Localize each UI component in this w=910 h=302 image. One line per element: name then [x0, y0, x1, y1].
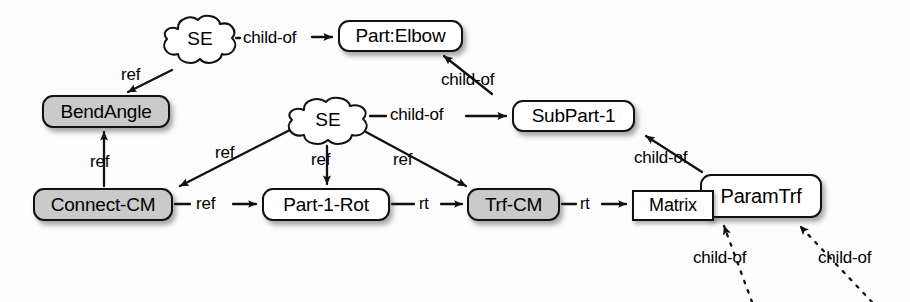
edge-label-child-of-1: child-of	[243, 28, 296, 48]
node-trf-cm[interactable]: Trf-CM	[467, 188, 560, 221]
edge-se2-ref-trfcm	[366, 132, 466, 186]
node-connect-cm[interactable]: Connect-CM	[33, 188, 173, 221]
edge-label-child-of-2: child-of	[441, 70, 494, 90]
edge-label-ref-2: ref	[215, 143, 234, 163]
edge-label-child-of-6: child-of	[818, 248, 871, 268]
node-label: SubPart-1	[532, 105, 616, 127]
node-part-elbow[interactable]: Part:Elbow	[338, 20, 463, 52]
edge-label-rt-1: rt	[419, 195, 428, 213]
edge-label-child-of-3: child-of	[390, 105, 443, 125]
node-label: Trf-CM	[485, 194, 542, 216]
diagram-canvas: SE Part:Elbow BendAngle SE SubPart-1 Con…	[0, 0, 910, 302]
node-bend-angle[interactable]: BendAngle	[42, 95, 170, 128]
node-label: Connect-CM	[51, 194, 156, 216]
node-label: SE	[187, 28, 212, 52]
node-se-2[interactable]: SE	[282, 94, 374, 148]
edge-se2-ref-connectcm	[180, 130, 290, 186]
node-label: SE	[315, 109, 340, 133]
edge-label-ref-5: ref	[90, 152, 109, 172]
node-label: ParamTrf	[721, 185, 802, 208]
node-matrix[interactable]: Matrix	[632, 190, 714, 221]
node-label: Part-1-Rot	[283, 194, 369, 216]
node-part-1-rot[interactable]: Part-1-Rot	[262, 188, 390, 221]
node-label: BendAngle	[60, 101, 151, 123]
node-subpart-1[interactable]: SubPart-1	[512, 100, 635, 132]
node-param-trf[interactable]: ParamTrf	[700, 174, 822, 218]
edge-label-ref-1: ref	[121, 65, 140, 85]
node-label: Matrix	[649, 195, 697, 216]
edge-label-child-of-5: child-of	[693, 248, 746, 268]
edge-label-ref-3: ref	[311, 150, 330, 170]
edge-label-child-of-4: child-of	[634, 148, 687, 168]
edge-label-ref-6: ref	[196, 194, 215, 214]
node-se-1[interactable]: SE	[158, 12, 242, 68]
node-label: Part:Elbow	[356, 25, 446, 47]
edge-label-ref-4: ref	[393, 150, 412, 170]
edge-label-rt-2: rt	[580, 195, 589, 213]
